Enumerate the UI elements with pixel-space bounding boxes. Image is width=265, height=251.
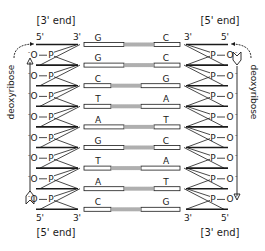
right-ring-edge — [184, 86, 224, 107]
left-base-bar — [84, 166, 111, 170]
right-phosphate-charge: - — [235, 151, 237, 158]
right-base-bar — [141, 166, 180, 170]
right-base-bar — [141, 207, 180, 211]
right-phosphorus: P — [210, 71, 216, 81]
right-ring-edge — [184, 106, 224, 127]
right-ring-edge — [184, 65, 224, 86]
left-phosphate-charge: - — [28, 192, 30, 199]
left-top-end-label: [3' end] — [37, 15, 76, 26]
right-phosphorus: P — [210, 112, 216, 122]
right-phosphodiester-bond — [186, 97, 210, 106]
left-base-bar — [84, 187, 124, 191]
left-phosphodiester-bond — [54, 118, 78, 127]
left-ring-edge — [40, 127, 80, 148]
right-base-bar — [154, 63, 180, 67]
left-phosphodiester-bond — [54, 77, 78, 86]
left-phosphorus: P — [48, 50, 54, 60]
left-top-3prime: 3' — [73, 32, 81, 42]
left-ring-edge — [40, 45, 80, 66]
left-base-letter: C — [95, 74, 101, 84]
right-deoxyribose-label: deoxyribose — [249, 65, 259, 120]
left-base-bar — [84, 43, 124, 47]
right-base-letter: A — [163, 94, 170, 104]
right-ring-edge — [184, 148, 224, 169]
right-phosphodiester-bond — [186, 159, 210, 168]
right-bottom-end-label: [3' end] — [201, 227, 240, 238]
left-phosphate-charge: - — [28, 131, 30, 138]
right-phosphate-oxygen: O — [226, 133, 233, 143]
left-phosphorus: P — [48, 71, 54, 81]
right-top-5prime: 5' — [221, 32, 229, 42]
left-base-bar — [84, 63, 124, 67]
right-ring-edge — [184, 127, 224, 148]
left-phosphate-charge: - — [28, 48, 30, 55]
left-base-letter: A — [95, 177, 102, 187]
right-base-bar — [141, 84, 180, 88]
right-phosphate-oxygen: O — [226, 174, 233, 184]
left-phosphorus: P — [48, 194, 54, 204]
dna-diagram: [3' end] 5' 3' [5' end] 3' 5' 5' 3' [5' … — [0, 0, 265, 251]
left-ring-edge — [40, 189, 80, 210]
left-base-letter: G — [95, 136, 102, 146]
left-base-bar — [84, 207, 111, 211]
right-ring-edge — [184, 189, 224, 210]
right-phosphorus: P — [210, 194, 216, 204]
right-phosphate-charge: - — [235, 48, 237, 55]
right-phosphodiester-bond — [186, 56, 210, 65]
right-phosphate-oxygen: O — [226, 71, 233, 81]
left-base-bar — [84, 125, 124, 129]
right-phosphate-oxygen: O — [226, 50, 233, 60]
right-phosphorus: P — [210, 153, 216, 163]
left-phosphate-oxygen: O — [30, 174, 37, 184]
left-phosphate-charge: - — [28, 69, 30, 76]
left-base-letter: G — [95, 33, 102, 43]
right-phosphodiester-bond — [186, 180, 210, 189]
dna-diagram-canvas: [3' end] 5' 3' [5' end] 3' 5' 5' 3' [5' … — [0, 0, 265, 251]
right-top-3prime: 3' — [184, 32, 192, 42]
left-base-letter: G — [95, 53, 102, 63]
right-ring-edge — [184, 45, 224, 66]
right-curve-arrowhead-icon — [231, 42, 235, 46]
left-base-bar — [84, 146, 124, 150]
left-phosphodiester-bond — [54, 97, 78, 106]
right-phosphate-charge: - — [235, 89, 237, 96]
right-base-bar — [154, 43, 180, 47]
left-phosphate-oxygen: O — [30, 91, 37, 101]
right-phosphate-oxygen: O — [226, 153, 233, 163]
left-phosphodiester-bond — [54, 200, 78, 209]
left-base-letter: T — [94, 156, 101, 166]
right-phosphate-charge: - — [235, 131, 237, 138]
left-ring-edge — [40, 65, 80, 86]
right-phosphate-charge: - — [235, 110, 237, 117]
left-base-bar — [84, 104, 111, 108]
right-phosphorus: P — [210, 50, 216, 60]
left-phosphorus: P — [48, 133, 54, 143]
left-base-letter: C — [95, 197, 101, 207]
base-pair-rows: GCO-PPO-GCO-PPO-CGO-PPO-TAO-PPO-ATO-PPO-… — [28, 33, 237, 212]
left-phosphate-oxygen: O — [30, 71, 37, 81]
right-base-bar — [141, 104, 180, 108]
right-phosphorus: P — [210, 133, 216, 143]
left-ring-edge — [40, 148, 80, 169]
right-base-bar — [154, 146, 180, 150]
left-phosphate-oxygen: O — [30, 50, 37, 60]
right-phosphate-oxygen: O — [226, 91, 233, 101]
right-phosphate-oxygen: O — [226, 112, 233, 122]
right-bottom-5prime: 5' — [221, 213, 229, 223]
left-phosphodiester-bond — [54, 159, 78, 168]
left-phosphate-charge: - — [28, 110, 30, 117]
right-phosphorus: P — [210, 91, 216, 101]
right-base-letter: G — [163, 197, 170, 207]
left-base-letter: A — [95, 115, 102, 125]
right-phosphodiester-bond — [186, 118, 210, 127]
left-phosphodiester-bond — [54, 180, 78, 189]
right-base-letter: C — [163, 53, 169, 63]
left-phosphorus: P — [48, 112, 54, 122]
left-ring-edge — [40, 86, 80, 107]
left-ring-edge — [40, 168, 80, 189]
left-phosphate-charge: - — [28, 151, 30, 158]
left-ring-edge — [40, 106, 80, 127]
right-phosphodiester-bond — [186, 139, 210, 148]
right-bottom-3prime: 3' — [184, 213, 192, 223]
left-phosphate-oxygen: O — [30, 112, 37, 122]
